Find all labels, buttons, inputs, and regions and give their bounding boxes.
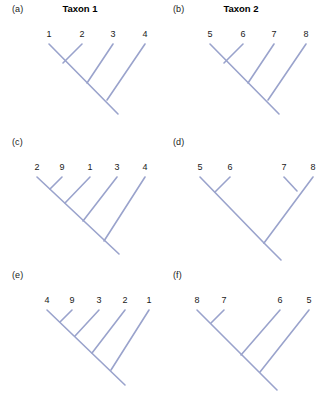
tip-label: 5 [207,29,212,39]
branch-backbone [49,44,118,114]
panel-c-tree: 2 9 1 3 4 [0,133,160,266]
tip-label: 3 [96,295,101,305]
branch-tip-5 [260,310,309,372]
panel-a-tree: 1 2 3 4 [0,0,160,133]
tip-label: 8 [303,29,308,39]
panel-b: (b) Taxon 2 5 6 7 8 [161,0,321,133]
phylogenetic-tree-figure: (a) Taxon 1 1 2 3 4 (b) Taxon 2 5 6 7 8 [0,0,321,399]
tip-label: 5 [306,295,311,305]
tip-label: 9 [69,295,74,305]
tip-label: 4 [142,162,147,172]
branch-tip-3 [87,44,113,83]
panel-e: (e) 4 9 3 2 1 [0,266,160,399]
panel-b-tree: 5 6 7 8 [161,0,321,133]
branch-backbone [197,310,277,390]
tip-label: 7 [281,162,286,172]
tip-label: 1 [46,29,51,39]
tip-label: 3 [114,162,119,172]
branch-root [264,243,281,260]
panel-f: (f) 8 7 6 5 [161,266,321,399]
tip-label: 9 [59,162,64,172]
tip-label: 5 [197,162,202,172]
tip-label: 6 [277,295,282,305]
branch-tip-8-backbone [264,177,313,243]
tip-label: 4 [142,29,147,39]
tip-label: 8 [310,162,315,172]
branch-tip-3 [83,177,117,221]
tip-label: 6 [227,162,232,172]
branch-tip-9 [50,177,62,189]
branch-tip-6 [241,310,280,355]
branch-tip-3 [75,310,99,336]
panel-e-tree: 4 9 3 2 1 [0,266,160,399]
tip-label: 2 [34,162,39,172]
branch-tip-2 [92,310,125,353]
branch-tip-1 [111,310,149,370]
panel-d: (d) 5 6 7 8 [161,133,321,266]
branch-tip-7 [211,310,224,323]
tip-label: 3 [110,29,115,39]
tip-label: 8 [194,295,199,305]
branch-tip-8 [268,44,306,100]
tip-label: 7 [221,295,226,305]
branch-tip-2 [63,44,82,63]
branch-tip-4 [107,44,145,100]
branch-tip-5-backbone [200,177,264,243]
branch-tip-6 [215,177,230,192]
branch-tip-6 [224,44,243,63]
panel-d-tree: 5 6 7 8 [161,133,321,266]
branch-tip-7 [248,44,274,83]
branch-tip-7 [284,177,297,191]
tip-label: 6 [240,29,245,39]
panel-a: (a) Taxon 1 1 2 3 4 [0,0,160,133]
tip-label: 4 [44,295,49,305]
tip-label: 1 [146,295,151,305]
tip-label: 1 [87,162,92,172]
tip-label: 7 [271,29,276,39]
branch-tip-1 [65,177,90,203]
tip-label: 2 [79,29,84,39]
panel-c: (c) 2 9 1 3 4 [0,133,160,266]
panel-f-tree: 8 7 6 5 [161,266,321,399]
branch-backbone [210,44,279,114]
tip-label: 2 [122,295,127,305]
branch-backbone [47,310,125,385]
branch-tip-9 [60,310,72,322]
